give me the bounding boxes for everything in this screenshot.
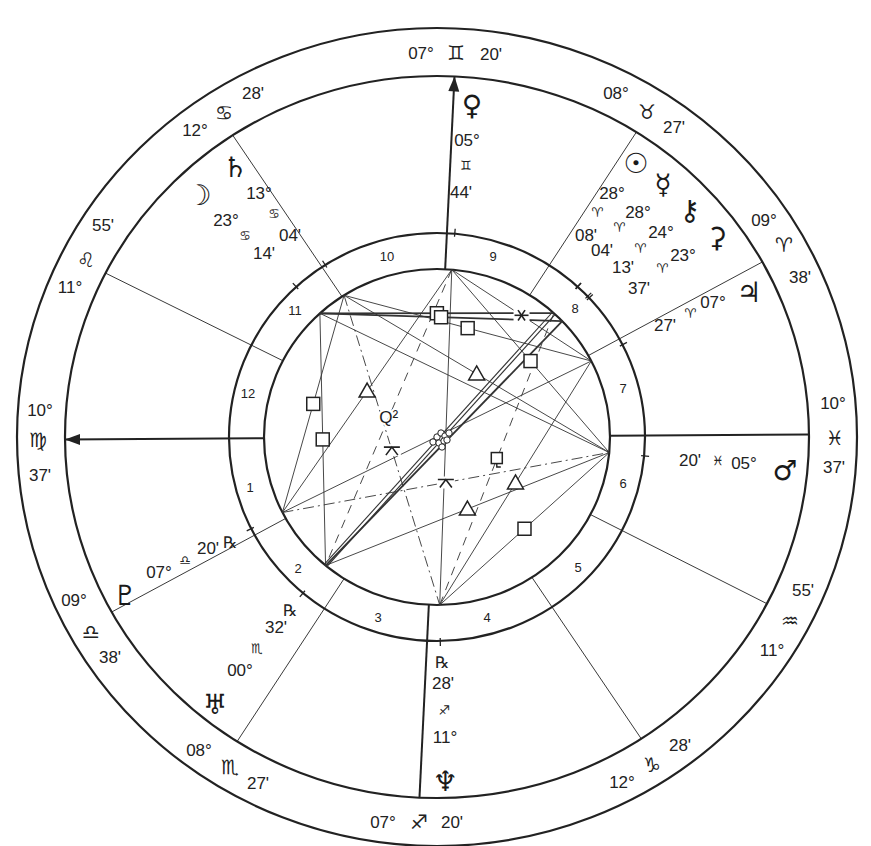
square-aspect-icon — [461, 322, 474, 335]
sun-degree: 28° — [599, 184, 625, 203]
cusp-7-degree: 10° — [820, 394, 846, 413]
cusp-12-sign-leo-icon: ♌ — [77, 248, 95, 272]
ceres-sign-icon: ♈ — [656, 261, 668, 276]
trine-aspect-icon — [359, 383, 375, 397]
mars-glyph-icon: ♂ — [772, 454, 797, 487]
house-number-8: 8 — [571, 301, 578, 316]
house-number-7: 7 — [619, 381, 626, 396]
cusp-4-minutes: 20' — [441, 813, 463, 832]
cusp-10-minutes: 20' — [480, 45, 502, 64]
cusp-11-degree: 12° — [182, 121, 208, 140]
cusp-7-sign-pisces-icon: ♓ — [826, 426, 844, 450]
square-aspect-icon — [316, 433, 329, 446]
cusp-6-degree: 11° — [760, 641, 784, 660]
cusp-2-minutes: 38' — [99, 648, 121, 667]
cusp-6-sign-aquarius-icon: ♒ — [781, 609, 799, 633]
cusp-2-sign-libra-icon: ♎ — [82, 620, 100, 644]
mars-sign-icon: ♓ — [712, 453, 724, 468]
cusp-9-minutes: 27' — [663, 118, 685, 137]
house-number-10: 10 — [380, 249, 394, 264]
jupiter-degree: 07° — [700, 293, 726, 312]
sesquiquadrate-aspect-icon — [491, 453, 502, 468]
mercury-glyph-icon: ☿ — [654, 168, 671, 201]
chiron-degree: 24° — [648, 223, 674, 242]
neptune-retrograde-icon: ℞ — [435, 653, 449, 672]
ceres-minutes: 37' — [628, 279, 650, 298]
cusp-7-minutes: 37' — [823, 458, 845, 477]
venus-degree: 05° — [454, 131, 480, 150]
neptune-degree: 11° — [433, 728, 457, 747]
square-aspect-icon — [307, 397, 320, 410]
moon-glyph-icon: ☽ — [186, 179, 211, 212]
uranus-glyph-icon: ♅ — [202, 688, 227, 721]
house-number-11: 11 — [288, 303, 302, 318]
house-number-9: 9 — [489, 249, 496, 264]
sun-sign-icon: ♈ — [591, 205, 603, 220]
cusp-5-sign-capricorn-icon: ♑ — [643, 753, 661, 777]
saturn-minutes: 04' — [279, 226, 301, 245]
house-number-6: 6 — [619, 476, 626, 491]
jupiter-glyph-icon: ♃ — [736, 276, 761, 309]
cusp-line-6 — [590, 515, 767, 604]
chiron-minutes: 13' — [612, 258, 634, 277]
square-aspect-icon — [524, 355, 537, 368]
cusp-4-sign-sagittarius-icon: ♐ — [410, 810, 428, 834]
cusp-2-degree: 09° — [61, 591, 87, 610]
ceres-degree: 23° — [670, 246, 696, 265]
cusp-12-minutes: 55' — [92, 216, 114, 235]
house-number-5: 5 — [574, 560, 581, 575]
saturn-sign-icon: ♋ — [268, 206, 280, 221]
cusp-12-degree: 11° — [58, 278, 82, 297]
cusp-4-degree: 07° — [370, 813, 396, 832]
venus-position-tick — [455, 229, 456, 237]
house-number-3: 3 — [374, 610, 381, 625]
asc-arrow-icon — [65, 434, 80, 445]
jupiter-sign-icon: ♈ — [684, 306, 696, 321]
house-number-1: 1 — [246, 480, 253, 495]
cusp-3-minutes: 27' — [247, 774, 269, 793]
venus-sign-icon: ♊ — [460, 158, 472, 173]
cusp-1-sign-virgo-icon: ♍ — [29, 428, 47, 452]
uranus-degree: 00° — [227, 661, 253, 680]
neptune-sign-icon: ♐ — [438, 703, 450, 718]
square-aspect-icon — [518, 522, 531, 535]
mc-arrow-icon — [448, 76, 459, 91]
cusp-line-10 — [445, 76, 454, 269]
saturn-glyph-icon: ♄ — [222, 151, 247, 184]
cusp-line-5 — [532, 577, 641, 738]
cusp-9-degree: 08° — [603, 84, 629, 103]
pluto-sign-icon: ♎ — [179, 553, 191, 568]
center-conjunction-cluster-icon — [430, 430, 452, 450]
biquintile-aspect-icon: Q² — [379, 408, 398, 427]
quincunx-aspect-icon — [437, 477, 455, 489]
uranus-retrograde-icon: ℞ — [283, 601, 297, 620]
mars-minutes: 20' — [679, 451, 701, 470]
pluto-retrograde-icon: ℞ — [223, 533, 237, 552]
quincunx-aspect-icon — [383, 444, 401, 456]
mercury-degree: 28° — [625, 203, 651, 222]
cusp-11-minutes: 28' — [242, 84, 264, 103]
uranus-minutes: 32' — [265, 618, 287, 637]
neptune-glyph-icon: ♆ — [432, 765, 457, 798]
ceres-glyph-icon: ⚳ — [707, 221, 728, 254]
cusp-11-sign-cancer-icon: ♋ — [215, 101, 233, 125]
house-number-2: 2 — [294, 561, 301, 576]
house-number-4: 4 — [483, 610, 490, 625]
cusp-10-degree: 07° — [408, 44, 434, 63]
natal-chart-wheel: Q²10°♍37'09°♎38'08°♏27'07°♐20'12°♑28'11°… — [0, 0, 871, 846]
cusp-line-7 — [610, 434, 809, 435]
trine-aspect-icon — [469, 366, 485, 380]
moon-minutes: 14' — [253, 244, 275, 263]
biquintile-label: Q² — [379, 408, 398, 427]
uranus-sign-icon: ♏ — [251, 641, 263, 656]
cusp-1-minutes: 37' — [29, 466, 51, 485]
pluto-minutes: 20' — [197, 539, 219, 558]
cusp-6-minutes: 55' — [792, 581, 814, 600]
neptune-minutes: 28' — [432, 674, 454, 693]
sun-glyph-icon: ☉ — [623, 147, 648, 180]
chiron-sign-icon: ♈ — [634, 241, 646, 256]
cusp-line-12 — [106, 273, 283, 361]
trine-aspect-icon — [507, 475, 523, 489]
pluto-glyph-icon: ♇ — [112, 579, 137, 612]
cusp-line-4 — [419, 605, 428, 798]
